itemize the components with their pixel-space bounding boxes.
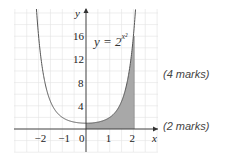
y-tick-label: 8 [78,77,84,89]
y-tick-label: 4 [78,100,84,112]
y-axis-label: y [74,7,80,19]
equation-label: y = 2x² [92,32,128,49]
x-axis-label: x [151,132,157,144]
equation-exponent: x² [121,32,129,41]
y-tick-label: 12 [73,53,84,65]
marks-part-a: (4 marks) [163,68,209,80]
x-tick-labels: −2−1012 [35,132,135,144]
y-axis-arrow-icon [84,8,89,13]
x-tick-label: 0 [79,132,85,144]
y-tick-label: 16 [73,30,85,42]
x-tick-label: 1 [106,132,112,144]
x-tick-label: 2 [129,132,135,144]
x-tick-label: −2 [35,132,47,144]
equation-base: y = 2 [92,34,122,49]
marks-part-b: (2 marks) [163,120,209,132]
x-tick-label: −1 [58,132,70,144]
